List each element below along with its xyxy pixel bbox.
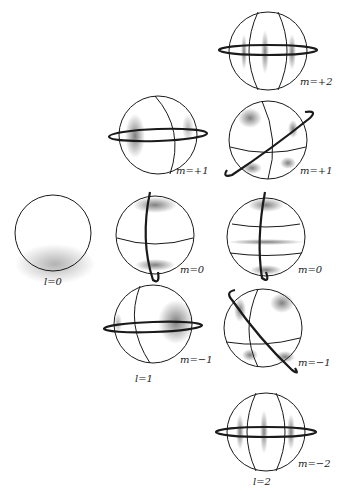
- sphere-l2-m0: [227, 192, 305, 280]
- label-l1-m-minus1: m=−1: [180, 354, 213, 365]
- label-l2-m0: m=0: [298, 264, 322, 275]
- label-l2-m-plus2: m=+2: [300, 76, 333, 87]
- label-l2-column: l=2: [253, 476, 271, 487]
- label-l1-column: l=1: [135, 373, 153, 384]
- sphere-l0: [15, 195, 95, 284]
- sphere-l1-m-minus1: [104, 285, 202, 363]
- label-l1-m0: m=0: [180, 264, 204, 275]
- label-l0: l=0: [44, 276, 62, 287]
- label-l2-m-plus1: m=+1: [300, 165, 333, 176]
- sphere-l1-m-plus1: [109, 96, 207, 174]
- label-l2-m-minus2: m=−2: [298, 458, 331, 469]
- label-l1-m-plus1: m=+1: [176, 165, 209, 176]
- label-l2-m-minus1: m=−1: [298, 357, 331, 368]
- sphere-l2-m-minus1: [224, 289, 302, 373]
- spherical-harmonics-figure: [0, 0, 350, 491]
